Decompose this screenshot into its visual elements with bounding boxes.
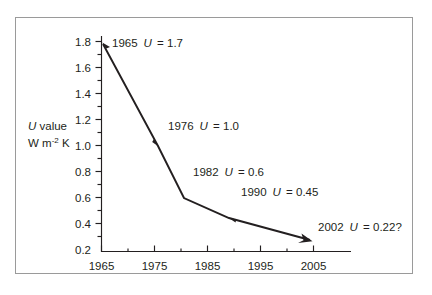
y-axis-title-units-pre: W m (28, 137, 52, 149)
data-label-1976-u: U (200, 120, 209, 132)
y-tick-labels: 1.8 1.6 1.4 1.2 1.0 0.8 0.6 0.4 0.2 (75, 36, 92, 256)
y-tick-label-0-4: 0.4 (75, 218, 92, 230)
data-point-labels: 1965U = 1.7 1976U = 1.0 1982U = 0.6 1990… (112, 37, 402, 233)
data-label-1990: 1990U = 0.45 (241, 186, 318, 198)
u-value-polyline (103, 44, 310, 240)
x-tick-label-1975: 1975 (142, 260, 168, 272)
y-tick-label-1-4: 1.4 (75, 88, 92, 100)
data-label-1990-year: 1990 (241, 186, 267, 198)
x-tick-label-1965: 1965 (89, 260, 115, 272)
data-label-1982-u: U (225, 166, 234, 178)
data-label-1965-u: U (144, 37, 153, 49)
y-axis-title-line-1: U value (28, 120, 67, 132)
data-label-1982-value: = 0.6 (235, 166, 264, 178)
x-tick-label-1995: 1995 (248, 260, 274, 272)
x-axis (102, 246, 352, 252)
y-axis (96, 36, 102, 252)
y-tick-label-1-8: 1.8 (75, 36, 91, 48)
data-label-1990-value: = 0.45 (283, 186, 319, 198)
data-label-1982-year: 1982 (193, 166, 219, 178)
y-tick-label-1-0: 1.0 (75, 140, 91, 152)
y-axis-title-value-word: value (36, 120, 67, 132)
y-tick-label-0-8: 0.8 (75, 166, 91, 178)
y-tick-label-1-2: 1.2 (75, 114, 91, 126)
data-label-1976-value: = 1.0 (210, 120, 239, 132)
x-tick-label-1985: 1985 (195, 260, 221, 272)
data-label-2002-u: U (350, 221, 359, 233)
data-label-2002-year: 2002 (318, 221, 344, 233)
y-axis-title-units-post: K (59, 137, 70, 149)
y-tick-label-0-2: 0.2 (75, 244, 91, 256)
x-tick-label-2005: 2005 (301, 260, 327, 272)
data-label-1976-year: 1976 (168, 120, 194, 132)
chart-canvas: 1.8 1.6 1.4 1.2 1.0 0.8 0.6 0.4 0.2 1965… (0, 0, 432, 295)
data-label-1965-year: 1965 (112, 37, 138, 49)
y-axis-title-line-2: W m-2 K (28, 136, 70, 150)
y-axis-title: U value W m-2 K (28, 120, 70, 149)
data-label-1982: 1982U = 0.6 (193, 166, 264, 178)
data-label-1976: 1976U = 1.0 (168, 120, 239, 132)
data-label-2002: 2002U = 0.22? (318, 221, 402, 233)
figure-root: 1.8 1.6 1.4 1.2 1.0 0.8 0.6 0.4 0.2 1965… (0, 0, 432, 295)
data-label-1965: 1965U = 1.7 (112, 37, 183, 49)
y-tick-label-1-6: 1.6 (75, 62, 91, 74)
data-series-u-value (102, 43, 312, 243)
data-label-1965-value: = 1.7 (154, 37, 183, 49)
x-tick-labels: 1965 1975 1985 1995 2005 (89, 260, 327, 272)
y-tick-label-0-6: 0.6 (75, 192, 91, 204)
data-label-2002-value: = 0.22? (360, 221, 402, 233)
data-label-1990-u: U (273, 186, 282, 198)
